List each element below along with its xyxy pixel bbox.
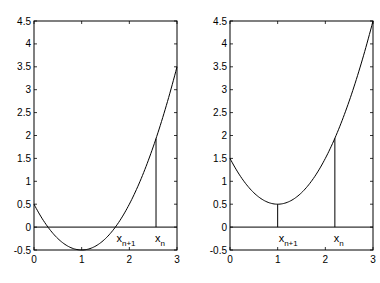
axes-frame bbox=[230, 21, 373, 250]
y-tick-label: 2.5 bbox=[17, 107, 31, 118]
x-tick-label: 0 bbox=[31, 254, 37, 265]
label-x-n-plus-1: xn+1 bbox=[117, 232, 137, 248]
x-tick-label: 0 bbox=[227, 254, 233, 265]
y-tick-label: -0.5 bbox=[210, 245, 228, 256]
left-plot: 0123-0.500.511.522.533.544.5xnxn+1 bbox=[14, 16, 180, 266]
y-tick-label: 0.5 bbox=[213, 199, 227, 210]
x-tick-label: 2 bbox=[323, 254, 329, 265]
y-tick-label: 2 bbox=[221, 130, 227, 141]
x-tick-label: 2 bbox=[127, 254, 133, 265]
label-x-n-plus-1: xn+1 bbox=[279, 232, 299, 248]
y-tick-label: 2 bbox=[25, 130, 31, 141]
y-tick-label: 4 bbox=[25, 38, 31, 49]
x-tick-label: 1 bbox=[79, 254, 85, 265]
right-plot: 0123-0.500.511.522.533.544.5xnxn+1 bbox=[210, 16, 376, 266]
label-x-n: xn bbox=[155, 232, 165, 248]
newton-method-figure: 0123-0.500.511.522.533.544.5xnxn+1 0123-… bbox=[0, 0, 380, 283]
y-tick-label: 4.5 bbox=[213, 16, 227, 27]
y-tick-label: 3 bbox=[221, 84, 227, 95]
y-tick-label: 3.5 bbox=[213, 61, 227, 72]
function-curve bbox=[230, 21, 373, 204]
y-tick-label: 4 bbox=[221, 38, 227, 49]
y-tick-label: 1 bbox=[221, 176, 227, 187]
y-tick-label: 4.5 bbox=[17, 16, 31, 27]
y-tick-label: 3.5 bbox=[17, 61, 31, 72]
x-tick-label: 1 bbox=[275, 254, 281, 265]
y-tick-label: 1.5 bbox=[213, 153, 227, 164]
y-tick-label: 1.5 bbox=[17, 153, 31, 164]
y-tick-label: 0 bbox=[221, 222, 227, 233]
y-tick-label: 1 bbox=[25, 176, 31, 187]
x-tick-label: 3 bbox=[370, 254, 376, 265]
label-x-n: xn bbox=[334, 232, 344, 248]
y-tick-label: 0 bbox=[25, 222, 31, 233]
y-tick-label: -0.5 bbox=[14, 245, 32, 256]
y-tick-label: 3 bbox=[25, 84, 31, 95]
y-tick-label: 2.5 bbox=[213, 107, 227, 118]
y-tick-label: 0.5 bbox=[17, 199, 31, 210]
x-tick-label: 3 bbox=[174, 254, 180, 265]
